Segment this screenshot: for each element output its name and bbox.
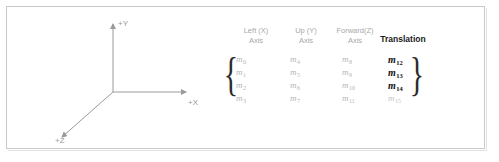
column-header-translation: Translation bbox=[372, 35, 434, 45]
axis-label-z: +Z bbox=[55, 136, 65, 145]
matrix-cell-subscript: 3 bbox=[243, 98, 246, 104]
matrix-cell-subscript: 10 bbox=[349, 85, 355, 91]
matrix-cell-m13: m13 bbox=[388, 67, 402, 78]
axis-label-x: +X bbox=[188, 98, 198, 107]
matrix-close-brace: } bbox=[410, 46, 424, 104]
transformation-matrix-figure: +Y +X +Z Left (X) Axis Up (Y) Axis Forwa… bbox=[0, 0, 499, 162]
matrix-cell-m15: m15 bbox=[388, 93, 401, 103]
matrix-cell-m7: m7 bbox=[290, 93, 300, 103]
matrix-cell-m3: m3 bbox=[236, 93, 246, 103]
matrix-cell-subscript: 2 bbox=[243, 85, 246, 91]
matrix-cell-m8: m8 bbox=[342, 54, 352, 64]
matrix-cell-subscript: 8 bbox=[349, 59, 352, 65]
matrix-row: m1m5m9m13 bbox=[236, 67, 412, 80]
matrix-cell-subscript: 5 bbox=[297, 72, 300, 78]
matrix-cell-subscript: 15 bbox=[395, 98, 401, 104]
matrix-cell-subscript: 12 bbox=[396, 59, 403, 66]
matrix-cell-m6: m6 bbox=[290, 80, 300, 90]
matrix-column-headers: Left (X) Axis Up (Y) Axis Forward(Z) Axi… bbox=[222, 26, 437, 52]
matrix-block: Left (X) Axis Up (Y) Axis Forward(Z) Axi… bbox=[222, 26, 437, 116]
matrix-cell-subscript: 11 bbox=[349, 98, 355, 104]
axis-label-y: +Y bbox=[118, 19, 128, 28]
matrix-cell-m1: m1 bbox=[236, 67, 246, 77]
matrix-cell-m0: m0 bbox=[236, 54, 246, 64]
matrix-cell-subscript: 6 bbox=[297, 85, 300, 91]
column-header-up-y-axis: Up (Y) Axis bbox=[284, 26, 328, 45]
matrix-cell-m10: m10 bbox=[342, 80, 355, 90]
matrix-cell-m4: m4 bbox=[290, 54, 300, 64]
matrix-cell-m12: m12 bbox=[388, 54, 402, 65]
axes-svg bbox=[10, 8, 225, 156]
axis-line-z bbox=[62, 92, 113, 137]
column-header-left-x-axis: Left (X) Axis bbox=[230, 26, 282, 45]
matrix-cell-subscript: 14 bbox=[396, 85, 403, 92]
matrix-cell-m11: m11 bbox=[342, 93, 354, 103]
matrix-row: m2m6m10m14 bbox=[236, 80, 412, 93]
matrix-row: m0m4m8m12 bbox=[236, 54, 412, 67]
matrix-cell-m5: m5 bbox=[290, 67, 300, 77]
matrix-cell-subscript: 9 bbox=[349, 72, 352, 78]
matrix-body: { } m0m4m8m12 m1m5m9m13 m2m6m10m14 m3m7m… bbox=[222, 52, 437, 110]
matrix-cell-m14: m14 bbox=[388, 80, 402, 91]
matrix-cell-m9: m9 bbox=[342, 67, 352, 77]
matrix-cell-subscript: 7 bbox=[297, 98, 300, 104]
matrix-row: m3m7m11m15 bbox=[236, 93, 412, 106]
matrix-cell-m2: m2 bbox=[236, 80, 246, 90]
matrix-cell-subscript: 4 bbox=[297, 59, 300, 65]
matrix-cell-subscript: 1 bbox=[243, 72, 246, 78]
matrix-cell-subscript: 13 bbox=[396, 72, 403, 79]
coordinate-axes-diagram: +Y +X +Z bbox=[10, 8, 225, 156]
matrix-cell-subscript: 0 bbox=[243, 59, 246, 65]
